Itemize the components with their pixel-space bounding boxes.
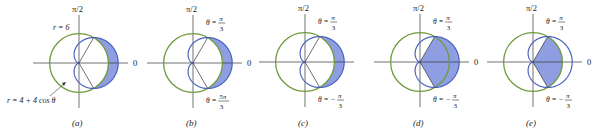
- label-r-equals-6: r = 6: [53, 23, 70, 32]
- label-theta-pi-over-3: θ =π3: [433, 14, 452, 32]
- svg-text:π: π: [559, 14, 563, 22]
- axis-label-pi-over-2: π/2: [186, 4, 197, 14]
- pointer-arrow: [50, 83, 65, 96]
- svg-text:3: 3: [447, 24, 451, 32]
- axis-label-zero: 0: [587, 57, 591, 67]
- label-theta-lower-ray: θ = −π3: [433, 92, 459, 110]
- label-theta-lower-ray: θ = −π3: [546, 92, 572, 110]
- label-theta-pi-over-3: θ =π3: [546, 14, 565, 32]
- axis-label-pi-over-2: π/2: [298, 3, 309, 13]
- label-theta-lower-ray: θ = −π3: [318, 92, 344, 110]
- svg-text:θ =: θ =: [318, 17, 329, 26]
- caption-b: (b): [186, 118, 197, 128]
- svg-text:π: π: [338, 92, 342, 100]
- svg-text:π: π: [453, 92, 457, 100]
- caption-d: (d): [413, 118, 424, 128]
- label-cardioid-equation: r = 4 + 4 cos θ: [7, 96, 56, 105]
- svg-text:5π: 5π: [219, 93, 227, 101]
- polar-area-figure: π/20r = 6r = 4 + 4 cos θ(a)π/20θ =π3θ =5…: [0, 0, 593, 135]
- panel-b: π/20θ =π3θ =5π3(b): [147, 4, 251, 128]
- svg-text:3: 3: [220, 103, 224, 111]
- svg-text:π: π: [446, 14, 450, 22]
- svg-text:θ =: θ =: [433, 17, 444, 26]
- label-theta-lower-ray: θ =5π3: [206, 93, 229, 111]
- panel-a: π/20r = 6r = 4 + 4 cos θ(a): [7, 4, 137, 128]
- svg-text:3: 3: [339, 102, 343, 110]
- panel-c: π/2θ =π3θ = −π3(c): [259, 3, 354, 128]
- axis-label-pi-over-2: π/2: [526, 3, 537, 13]
- svg-text:π: π: [331, 14, 335, 22]
- label-theta-pi-over-3: θ =π3: [206, 15, 225, 33]
- caption-a: (a): [72, 118, 83, 128]
- caption-e: (e): [526, 118, 536, 128]
- svg-text:θ =: θ =: [206, 18, 217, 27]
- axis-label-zero: 0: [133, 58, 137, 68]
- caption-c: (c): [298, 118, 308, 128]
- panel-e: π/20θ =π3θ = −π3(e): [487, 3, 591, 128]
- axis-label-zero: 0: [474, 57, 478, 67]
- svg-text:3: 3: [220, 25, 224, 33]
- panel-d: π/20θ =π3θ = −π3(d): [374, 3, 478, 128]
- svg-text:π: π: [566, 92, 570, 100]
- axis-label-zero: 0: [247, 58, 251, 68]
- svg-text:θ = −: θ = −: [433, 95, 451, 104]
- label-theta-pi-over-3: θ =π3: [318, 14, 337, 32]
- svg-text:3: 3: [560, 24, 564, 32]
- svg-text:3: 3: [454, 102, 458, 110]
- svg-text:θ = −: θ = −: [546, 95, 564, 104]
- axis-label-pi-over-2: π/2: [72, 4, 83, 14]
- svg-text:θ =: θ =: [546, 17, 557, 26]
- svg-text:θ = −: θ = −: [318, 95, 336, 104]
- svg-text:π: π: [219, 15, 223, 23]
- svg-text:θ =: θ =: [206, 96, 217, 105]
- svg-text:3: 3: [332, 24, 336, 32]
- axis-label-pi-over-2: π/2: [413, 3, 424, 13]
- svg-text:3: 3: [567, 102, 571, 110]
